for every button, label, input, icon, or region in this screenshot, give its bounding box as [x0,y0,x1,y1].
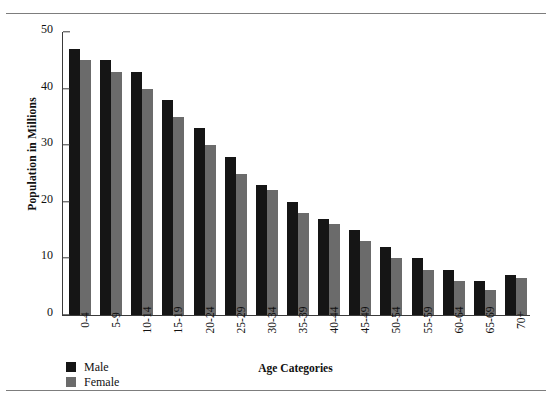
bar-group [131,32,153,315]
y-axis-title: Population in Millions [26,54,38,254]
bar-chart-figure: Population in Millions 01020304050 0-45-… [0,18,552,386]
bar-male [100,60,111,315]
bar-group [100,32,122,315]
bar-female [360,241,371,315]
x-axis-tick-label: 45-49 [359,307,371,334]
x-axis-tick-label: 10-14 [141,307,153,334]
bar-group [256,32,278,315]
legend-item: Male [66,359,119,374]
bar-male [505,275,516,315]
x-axis-tick-label: 15-19 [172,307,184,334]
plot-area: 01020304050 [62,32,530,316]
x-axis-tick-label: 65-69 [484,307,496,334]
bar-female [142,89,153,315]
bar-male [69,49,80,315]
x-axis-tick-label: 50-54 [390,307,402,334]
bar-female [205,145,216,315]
page-rule-top [6,13,546,14]
bar-male [256,185,267,315]
x-axis-tick-label: 55-59 [422,307,434,334]
x-axis-tick-label: 70+ [515,311,527,329]
bar-group [194,32,216,315]
bar-female [173,117,184,315]
y-axis-tick-mark [63,314,70,315]
bar-group [287,32,309,315]
y-axis-tick-mark [63,201,70,202]
y-axis-tick-label: 40 [41,79,53,94]
y-axis-tick-mark [63,144,70,145]
bar-female [80,60,91,315]
bar-group [412,32,434,315]
bar-group [225,32,247,315]
bar-female [111,72,122,315]
y-axis-tick-mark [63,31,70,32]
bar-group [69,32,91,315]
x-axis-tick-label: 20-24 [204,307,216,334]
bar-female [516,278,527,315]
bar-groups [63,32,530,315]
bar-group [505,32,527,315]
legend-item: Female [66,374,119,389]
legend-swatch-icon [66,377,76,387]
bar-group [349,32,371,315]
bar-group [380,32,402,315]
y-axis-tick-mark [63,88,70,89]
x-axis-tick-label: 5-9 [110,312,122,327]
page-rule-bottom [6,390,546,391]
bar-female [236,174,247,316]
x-axis-tick-label: 40-44 [328,307,340,334]
y-axis-tick-mark [63,258,70,259]
x-axis-tick-label: 0-4 [79,312,91,327]
legend-label: Female [84,376,119,388]
x-axis-tick-label: 35-39 [297,307,309,334]
bar-male [380,247,391,315]
x-axis-tick-label: 30-34 [266,307,278,334]
bar-female [298,213,309,315]
y-axis-tick-label: 20 [41,192,53,207]
bar-male [349,230,360,315]
bar-male [287,202,298,315]
bar-group [443,32,465,315]
bar-male [194,128,205,315]
y-axis-tick-label: 0 [47,305,53,320]
x-axis-tick-label: 60-64 [453,307,465,334]
y-axis-tick-label: 30 [41,135,53,150]
bar-male [131,72,142,315]
bar-male [412,258,423,315]
bar-male [162,100,173,315]
y-axis-tick-label: 10 [41,249,53,264]
bar-female [267,190,278,315]
bar-group [162,32,184,315]
bar-female [329,224,340,315]
bar-male [318,219,329,315]
x-axis-title: Age Categories [62,362,529,374]
bar-male [225,157,236,315]
legend-swatch-icon [66,362,76,372]
bar-group [318,32,340,315]
chart-legend: MaleFemale [66,359,119,389]
y-axis-tick-label: 50 [41,22,53,37]
legend-label: Male [84,361,109,373]
x-axis-tick-label: 25-29 [235,307,247,334]
bar-group [474,32,496,315]
